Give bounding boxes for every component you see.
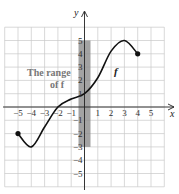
function-graph: −5−4−3−2−11234554321−1−2−3−4−5 y x The r…	[0, 0, 179, 194]
x-tick-label: −4	[27, 108, 37, 118]
y-axis-label: y	[73, 7, 79, 18]
range-annotation-line2: of f	[50, 79, 65, 90]
y-tick-label: 2	[78, 75, 83, 85]
x-tick-label: −3	[40, 108, 50, 118]
y-tick-label: −4	[73, 155, 83, 165]
y-tick-label: −2	[73, 129, 83, 139]
x-tick-label: 2	[109, 108, 114, 118]
x-tick-label: 1	[96, 108, 101, 118]
x-tick-label: 5	[149, 108, 154, 118]
x-tick-label: 4	[135, 108, 140, 118]
x-tick-label: −2	[53, 108, 63, 118]
y-tick-label: 4	[78, 49, 83, 59]
closed-endpoint	[135, 51, 140, 56]
x-axis-label: x	[169, 108, 175, 119]
y-tick-label: −5	[73, 169, 83, 179]
y-tick-label: 1	[78, 89, 83, 99]
y-tick-label: 5	[78, 36, 83, 46]
x-tick-label: −5	[13, 108, 23, 118]
range-annotation-line1: The range	[27, 67, 71, 78]
y-tick-label: 3	[78, 62, 83, 72]
closed-endpoint	[15, 131, 20, 136]
y-tick-label: −1	[73, 115, 83, 125]
y-tick-label: −3	[73, 142, 83, 152]
x-tick-label: 3	[122, 108, 127, 118]
